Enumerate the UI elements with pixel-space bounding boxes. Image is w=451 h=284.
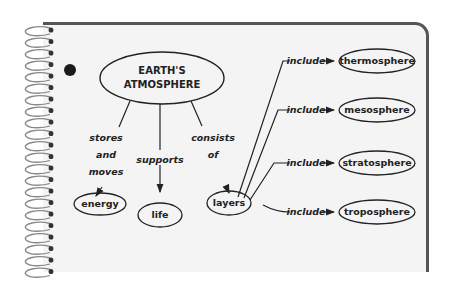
link-label-include: include bbox=[287, 55, 326, 66]
node-energy: energy bbox=[74, 193, 126, 215]
link-label-supports: supports bbox=[136, 154, 184, 165]
node-mesosphere: mesosphere bbox=[339, 98, 415, 122]
node-label: ATMOSPHERE bbox=[124, 79, 201, 90]
svg-text:life: life bbox=[151, 209, 168, 220]
svg-text:thermosphere: thermosphere bbox=[339, 55, 415, 66]
link-label-include: include bbox=[287, 104, 326, 115]
node-thermosphere: thermosphere bbox=[339, 49, 415, 73]
svg-text:layers: layers bbox=[213, 197, 246, 208]
node-layers: layers bbox=[207, 191, 251, 215]
link-label-stores: stores bbox=[89, 132, 123, 143]
node-stratosphere: stratosphere bbox=[339, 151, 415, 175]
node-troposphere: troposphere bbox=[339, 200, 415, 224]
link-label-of: of bbox=[208, 149, 221, 160]
node-label: EARTH'S bbox=[138, 65, 185, 76]
svg-text:stratosphere: stratosphere bbox=[342, 157, 411, 168]
link-label-moves: moves bbox=[89, 166, 124, 177]
spiral-binding bbox=[25, 27, 53, 277]
svg-text:mesosphere: mesosphere bbox=[344, 104, 409, 115]
svg-text:troposphere: troposphere bbox=[344, 206, 410, 217]
concept-map: EARTH'S ATMOSPHERE stores and moves supp… bbox=[0, 0, 451, 284]
link-label-consists: consists bbox=[191, 132, 235, 143]
node-earths-atmosphere: EARTH'S ATMOSPHERE bbox=[100, 52, 224, 104]
link-label-and: and bbox=[96, 149, 116, 160]
node-life: life bbox=[138, 203, 182, 227]
link-label-include: include bbox=[287, 157, 326, 168]
svg-text:energy: energy bbox=[81, 198, 119, 209]
link-label-include: include bbox=[287, 206, 326, 217]
